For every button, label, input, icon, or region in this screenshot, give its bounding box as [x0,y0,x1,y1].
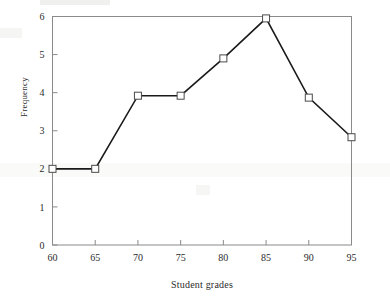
x-tick-label: 60 [48,252,58,263]
plot-frame [53,17,352,246]
data-point-markers [49,15,355,172]
x-axis-tick-labels: 6065707580859095 [48,252,357,263]
x-axis-label: Student grades [52,279,352,290]
y-tick-label: 1 [40,202,45,213]
data-point-marker [220,55,227,62]
x-tick-label: 95 [347,252,357,263]
x-tick-label: 80 [218,252,228,263]
data-point-marker [348,134,355,141]
x-tick-label: 90 [304,252,314,263]
data-point-marker [134,92,141,99]
y-axis-label: Frequency [19,57,29,137]
data-line [53,18,352,168]
y-tick-label: 6 [40,11,45,22]
x-tick-label: 85 [261,252,271,263]
data-point-marker [177,92,184,99]
frequency-polygon-chart: 0123456 6065707580859095 [0,0,390,303]
x-tick-label: 75 [176,252,186,263]
data-point-marker [305,94,312,101]
x-tick-label: 65 [90,252,100,263]
x-tick-label: 70 [133,252,143,263]
y-tick-marks [53,17,58,246]
y-tick-label: 2 [40,163,45,174]
y-tick-label: 5 [40,49,45,60]
y-axis-tick-labels: 0123456 [40,11,45,251]
y-tick-label: 3 [40,125,45,136]
y-tick-label: 4 [40,87,45,98]
data-point-marker [49,165,56,172]
x-tick-marks [53,240,352,245]
data-point-marker [92,165,99,172]
data-point-marker [263,15,270,22]
y-tick-label: 0 [40,240,45,251]
chart-page: 0123456 6065707580859095 Frequency Stude… [0,0,390,303]
